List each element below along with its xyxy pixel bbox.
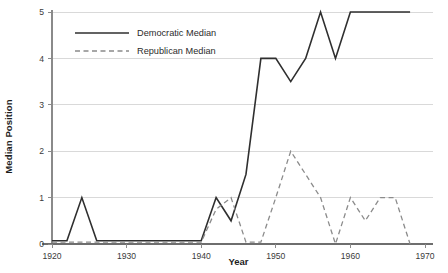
y-tick-label-4: 4 xyxy=(39,54,44,64)
plot-area: 012345192019301940195019601970 Democrati… xyxy=(0,0,448,273)
y-tick-label-3: 3 xyxy=(39,100,44,110)
legend: Democratic MedianRepublican Median xyxy=(75,28,216,56)
y-tick-label-1: 1 xyxy=(39,193,44,203)
legend-label-republican: Republican Median xyxy=(137,46,216,56)
data-series xyxy=(52,12,410,244)
legend-label-democratic: Democratic Median xyxy=(137,28,216,38)
x-tick-label-1940: 1940 xyxy=(192,251,211,261)
y-tick-label-5: 5 xyxy=(39,7,44,17)
x-tick-label-1960: 1960 xyxy=(341,251,360,261)
y-tick-label-0: 0 xyxy=(39,239,44,249)
axis-lines xyxy=(42,10,433,244)
x-tick-label-1970: 1970 xyxy=(415,251,434,261)
gridlines xyxy=(52,12,433,244)
x-tick-label-1920: 1920 xyxy=(42,251,61,261)
y-tick-label-2: 2 xyxy=(39,146,44,156)
x-tick-label-1930: 1930 xyxy=(117,251,136,261)
x-tick-label-1950: 1950 xyxy=(266,251,285,261)
axis-tick-labels: 012345192019301940195019601970 xyxy=(39,7,435,261)
series-line-democratic xyxy=(52,12,410,241)
chart-container: Median Position Year 0123451920193019401… xyxy=(0,0,448,273)
axis-ticks xyxy=(48,12,425,248)
